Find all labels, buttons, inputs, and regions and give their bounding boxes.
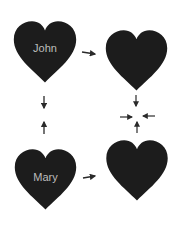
- arrow-john-to-topright: [82, 52, 95, 54]
- arrows-layer: [0, 0, 187, 228]
- arrow-mary-to-bottomright: [83, 176, 95, 178]
